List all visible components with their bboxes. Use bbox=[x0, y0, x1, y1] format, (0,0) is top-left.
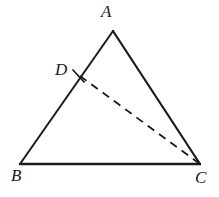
vertex-label-a: A bbox=[101, 3, 111, 20]
triangle-diagram: A B C D bbox=[0, 0, 219, 197]
vertex-label-c: C bbox=[195, 169, 206, 186]
vertex-label-d: D bbox=[55, 61, 67, 78]
geometry-canvas bbox=[0, 0, 219, 197]
segment-ac bbox=[113, 31, 200, 164]
segment-dc-dashed bbox=[80, 76, 200, 164]
vertex-label-b: B bbox=[11, 167, 21, 184]
segment-ab bbox=[20, 31, 113, 164]
